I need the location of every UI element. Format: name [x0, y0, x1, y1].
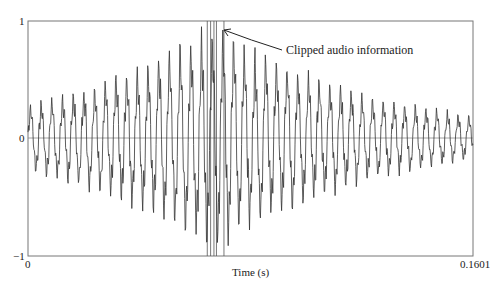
waveform-line — [28, 27, 473, 246]
waveform-chart — [0, 0, 502, 287]
y-tick-zero: 0 — [19, 132, 25, 144]
x-tick-right: 0.1601 — [460, 258, 490, 270]
annotation-arrow — [224, 30, 282, 50]
x-tick-left: 0 — [25, 258, 31, 270]
annotation-label: Clipped audio information — [286, 44, 413, 56]
y-tick-bottom: −1 — [13, 250, 25, 262]
x-axis-label: Time (s) — [232, 266, 269, 278]
y-tick-top: 1 — [19, 15, 25, 27]
